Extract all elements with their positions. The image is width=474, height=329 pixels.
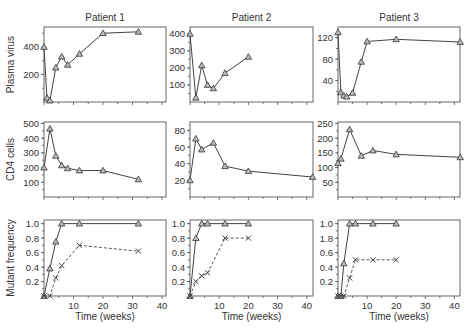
triangle-marker <box>338 156 344 162</box>
panel-p1-mutant: 0.20.40.60.81.010203040Time (weeks) <box>26 218 168 322</box>
triangle-marker <box>346 126 352 132</box>
plot-frame <box>44 220 166 296</box>
y-tick-label: 0.4 <box>26 262 39 273</box>
triangle-marker <box>59 53 65 59</box>
plot-frame <box>44 27 166 102</box>
x-tick-label: 20 <box>243 300 254 311</box>
series-line <box>338 129 460 163</box>
plot-frame <box>190 220 313 296</box>
triangle-marker <box>53 153 59 159</box>
triangle-marker <box>222 70 228 76</box>
y-tick-label: 60 <box>174 142 185 153</box>
plot-frame <box>190 27 313 102</box>
x-tick-label: 40 <box>449 300 460 311</box>
panel-p3-mutant: 0.20.40.61.81.010203040Time (weeks) <box>320 218 460 322</box>
x-tick-label: 10 <box>362 300 373 311</box>
y-tick-label: 200 <box>169 62 185 73</box>
triangle-marker <box>210 140 216 146</box>
triangle-marker <box>335 29 341 35</box>
y-tick-label: 120 <box>317 32 333 43</box>
x-tick-label: 20 <box>98 300 109 311</box>
plot-frame <box>190 122 313 197</box>
triangle-marker <box>53 239 59 245</box>
triangle-marker <box>47 265 53 271</box>
y-tick-label: 0.6 <box>320 247 333 258</box>
y-tick-label: 500 <box>23 118 39 129</box>
triangle-marker <box>370 147 376 153</box>
y-tick-label: 50 <box>322 177 333 188</box>
x-axis-label: Time (weeks) <box>369 311 429 322</box>
x-tick-label: 30 <box>420 300 431 311</box>
plot-frame <box>338 122 460 197</box>
panel-p2-virus: 100200300400 <box>169 27 313 105</box>
panel-p2-mutant: 0.20.40.60.81.010203040Time (weeks) <box>172 218 313 322</box>
series-line <box>190 224 248 296</box>
y-tick-label: 80 <box>174 125 185 136</box>
y-tick-label: 100 <box>317 162 333 173</box>
row-label-1: CD4 cells <box>5 138 16 181</box>
panel-p3-virus: 4080120 <box>317 27 463 105</box>
y-tick-label: 400 <box>23 133 39 144</box>
y-tick-label: 0.8 <box>172 233 185 244</box>
x-tick-label: 30 <box>127 300 138 311</box>
y-tick-label: 1.0 <box>320 218 333 229</box>
y-tick-label: 1.8 <box>320 233 333 244</box>
triangle-marker <box>245 54 251 60</box>
panel-title-patient-2: Patient 2 <box>232 12 272 23</box>
y-tick-label: 0.4 <box>320 262 333 273</box>
x-axis-label: Time (weeks) <box>75 311 135 322</box>
x-axis-label: Time (weeks) <box>222 311 282 322</box>
triangle-marker <box>193 235 199 241</box>
triangle-marker <box>47 125 53 131</box>
plot-frame <box>44 122 166 197</box>
y-tick-label: 300 <box>169 45 185 56</box>
y-tick-label: 200 <box>317 133 333 144</box>
panel-p3-cd4: 50100150200250 <box>317 118 463 200</box>
y-tick-label: 80 <box>322 54 333 65</box>
y-tick-label: 0.8 <box>26 233 39 244</box>
panel-title-patient-1: Patient 1 <box>85 12 125 23</box>
figure: Patient 1Patient 2Patient 3Plasma virusC… <box>0 0 474 329</box>
triangle-marker <box>341 260 347 266</box>
triangle-marker <box>193 135 199 141</box>
y-tick-label: 200 <box>23 162 39 173</box>
series-line <box>44 224 138 296</box>
series-line <box>190 238 248 296</box>
panel-title-patient-3: Patient 3 <box>379 12 419 23</box>
x-tick-label: 10 <box>68 300 79 311</box>
triangle-marker <box>222 163 228 169</box>
y-tick-label: 20 <box>174 175 185 186</box>
plot-frame <box>338 220 460 296</box>
panel-p2-cd4: 20406080 <box>174 122 315 200</box>
row-label-0: Plasma virus <box>5 36 16 93</box>
triangle-marker <box>358 59 364 65</box>
y-tick-label: 1.0 <box>26 218 39 229</box>
series-line <box>44 32 138 101</box>
y-tick-label: 300 <box>23 147 39 158</box>
y-tick-label: 40 <box>174 158 185 169</box>
y-tick-label: 250 <box>317 118 333 129</box>
triangle-marker <box>198 62 204 68</box>
x-tick-label: 30 <box>272 300 283 311</box>
x-tick-label: 10 <box>214 300 225 311</box>
panel-p1-cd4: 100200300400500 <box>23 118 166 200</box>
series-line <box>190 34 248 98</box>
x-tick-label: 40 <box>157 300 168 311</box>
y-tick-label: 0.6 <box>172 247 185 258</box>
y-tick-label: 0.2 <box>26 276 39 287</box>
x-tick-label: 20 <box>391 300 402 311</box>
y-tick-label: 150 <box>317 147 333 158</box>
chart-svg: Patient 1Patient 2Patient 3Plasma virusC… <box>0 0 474 329</box>
row-label-2: Mutant frequency <box>5 219 16 296</box>
series-line <box>44 245 138 296</box>
triangle-marker <box>59 162 65 168</box>
y-tick-label: 0.4 <box>172 262 185 273</box>
y-tick-label: 400 <box>23 41 39 52</box>
panel-p1-virus: 200400 <box>23 27 166 105</box>
series-line <box>190 139 313 181</box>
y-tick-label: 100 <box>23 177 39 188</box>
triangle-marker <box>349 90 355 96</box>
plot-frame <box>338 27 460 102</box>
triangle-marker <box>204 82 210 88</box>
y-tick-label: 100 <box>169 79 185 90</box>
